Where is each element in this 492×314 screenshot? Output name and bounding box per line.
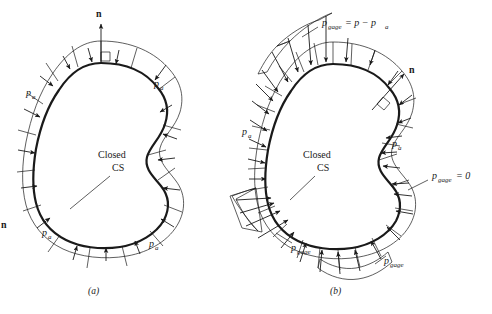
panel-b-eq2-sub: gage [438,176,452,184]
panel-b-gage-profile-topleft [258,41,290,74]
panel-a-cs-label-line2: CS [112,162,124,173]
panel-b-eq2-base: p [431,170,437,181]
panel-b-equation-gage-zero: p gage = 0 [408,170,470,190]
panel-a-pa-sub-0: a [32,93,36,101]
panel-a-pa-sub-1: a [160,84,164,92]
panel-b-plabel-sub-0: a [248,132,252,140]
panel-b-gage-profile-bottom [318,252,392,280]
panel-b-gage-profile-left-outer [230,188,262,232]
panel-b-eq1-rhs-sub: a [385,23,389,31]
stray-normal-vector-label: n [1,219,7,230]
panel-b-cs-label-line2: CS [317,162,329,173]
panel-b: n Closed CS p gage = p − p a p gage = 0 … [230,13,470,297]
panel-b-plabel-base-1: p [391,138,397,149]
panel-a-pa-base-0: p [25,87,31,98]
panel-a-normal-vector [101,24,110,63]
panel-a-pa-base-2: p [41,227,47,238]
panel-b-plabel-sub-1: a [398,144,402,152]
panel-b-plabel-base-3: p [383,255,389,266]
panel-b-normal-vector-label: n [409,64,415,75]
panel-b-pressure-label-3: p gage [375,255,404,269]
panel-b-eq1-base: p [321,17,327,28]
panel-b-equation-gage-def: p gage = p − p a [302,17,389,37]
panel-b-eq1-rhs: = p − p [345,17,376,28]
pressure-distribution-figure: n [0,0,492,314]
panel-a: n Closed CS p a p a p a p a (a) [17,8,184,297]
panel-a-pa-base-3: p [148,238,154,249]
panel-b-eq1-sub: gage [328,23,342,31]
panel-a-pa-sub-2: a [48,233,52,241]
panel-b-pressure-label-1: p a [391,138,402,152]
panel-b-caption: (b) [330,286,341,297]
panel-a-cs-label-line1: Closed [98,149,126,160]
panel-a-pressure-label-0: p a [25,87,36,101]
panel-b-eq2-rhs: = 0 [456,170,470,181]
panel-b-plabel-base-2: p [290,242,296,253]
panel-a-normal-vector-label: n [96,8,102,19]
panel-b-eq2-leader [408,180,428,190]
panel-b-cs-label-line1: Closed [303,149,331,160]
panel-b-pressure-label-0: p a [241,126,252,140]
panel-a-pa-base-1: p [153,78,159,89]
panel-a-caption: (a) [88,286,99,297]
panel-b-plabel-base-0: p [241,126,247,137]
panel-a-pa-sub-3: a [155,244,159,252]
panel-b-plabel-sub-2: gage [297,248,311,256]
panel-a-pressure-label-3: p a [148,238,159,252]
panel-b-plabel-sub-3: gage [390,261,404,269]
